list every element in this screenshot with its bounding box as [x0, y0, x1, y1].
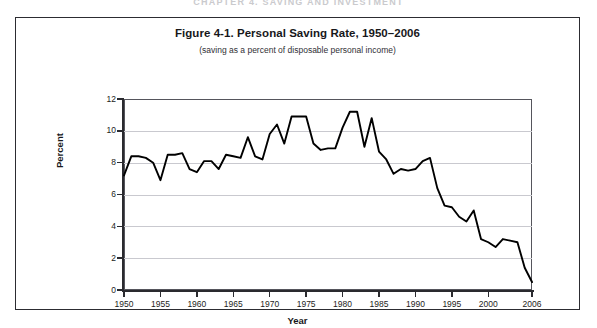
x-axis-tick	[269, 292, 270, 297]
x-axis-title: Year	[16, 315, 579, 326]
y-axis-label-holder: 8	[90, 157, 116, 168]
y-axis-tick	[117, 257, 122, 258]
y-axis-tick-label: 2	[92, 253, 116, 263]
y-axis-title: Percent	[54, 133, 65, 168]
y-axis-label-holder: 0	[90, 285, 116, 296]
x-axis-tick-label: 1985	[359, 299, 399, 309]
x-axis-tick-label: 2000	[468, 299, 508, 309]
y-axis-tick	[117, 98, 122, 99]
plot-area	[124, 99, 532, 290]
x-axis-tick-label: 1980	[323, 299, 363, 309]
y-axis-tick-label: 0	[92, 285, 116, 295]
x-axis-tick	[123, 292, 124, 297]
x-axis-tick-label: 1960	[177, 299, 217, 309]
x-axis-tick-label: 1950	[104, 299, 144, 309]
y-axis-tick-label: 8	[92, 157, 116, 167]
y-axis-tick-label: 4	[92, 221, 116, 231]
x-axis-tick	[196, 292, 197, 297]
x-axis-tick-label: 1955	[140, 299, 180, 309]
y-axis-tick-label: 10	[92, 125, 116, 135]
y-axis-tick	[117, 194, 122, 195]
y-axis-tick	[117, 289, 122, 290]
x-axis-tick-label: 1990	[395, 299, 435, 309]
y-axis-label-holder: 6	[90, 189, 116, 200]
x-axis-tick	[160, 292, 161, 297]
running-head: CHAPTER 4. SAVING AND INVESTMENT	[0, 0, 597, 7]
x-axis-tick	[488, 292, 489, 297]
x-axis-tick-label: 1995	[432, 299, 472, 309]
y-axis-label-holder: 2	[90, 253, 116, 264]
x-axis-tick	[415, 292, 416, 297]
x-axis-tick	[451, 292, 452, 297]
saving-rate-line-series	[124, 99, 532, 290]
x-axis-tick-label: 1975	[286, 299, 326, 309]
x-axis-tick	[378, 292, 379, 297]
y-axis-label-holder: 12	[90, 94, 116, 105]
y-axis-label-holder: 10	[90, 125, 116, 136]
figure-title: Figure 4-1. Personal Saving Rate, 1950–2…	[16, 27, 579, 39]
y-axis-label-holder: 4	[90, 221, 116, 232]
x-axis-tick-label: 1965	[213, 299, 253, 309]
x-axis-tick	[305, 292, 306, 297]
x-axis-tick-label: 2006	[512, 299, 552, 309]
y-axis-tick	[117, 162, 122, 163]
y-axis-tick	[117, 130, 122, 131]
figure-page: CHAPTER 4. SAVING AND INVESTMENT Figure …	[0, 0, 597, 328]
figure-subtitle: (saving as a percent of disposable perso…	[16, 45, 579, 55]
x-axis-tick-label: 1970	[250, 299, 290, 309]
y-axis-tick-label: 12	[92, 94, 116, 104]
x-axis-tick	[531, 292, 532, 297]
figure-container: Figure 4-1. Personal Saving Rate, 1950–2…	[15, 17, 580, 310]
x-axis-line	[122, 290, 534, 292]
y-axis-tick-label: 6	[92, 189, 116, 199]
x-axis-tick	[233, 292, 234, 297]
x-axis-tick	[342, 292, 343, 297]
y-axis-tick	[117, 226, 122, 227]
